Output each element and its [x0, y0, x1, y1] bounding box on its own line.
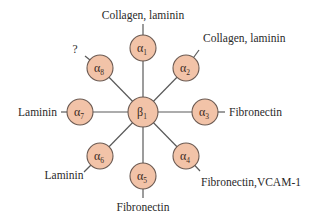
alpha3-subscript: 3 — [205, 112, 209, 121]
integrin-subunit-diagram: α1α2α3α4α5α6α7α8β1 Collagen, lamininColl… — [0, 0, 312, 220]
alpha2-subscript: 2 — [186, 68, 190, 77]
node-alpha1: α1 — [130, 35, 156, 61]
alpha7-subscript: 7 — [80, 112, 84, 121]
alpha5-subscript: 5 — [143, 176, 147, 185]
ligand-label-alpha6: Laminin — [45, 169, 84, 181]
ligand-label-alpha7: Laminin — [18, 106, 57, 118]
alpha8-subscript: 8 — [100, 68, 104, 77]
ligand-labels-group: Collagen, lamininCollagen, lamininFibron… — [18, 9, 301, 213]
node-alpha3: α3 — [192, 99, 218, 125]
node-alpha4: α4 — [173, 143, 199, 169]
ligand-label-alpha8: ? — [72, 43, 77, 55]
node-alpha2: α2 — [173, 55, 199, 81]
node-alpha5: α5 — [130, 163, 156, 189]
alpha1-subscript: 1 — [143, 48, 147, 57]
node-alpha8: α8 — [87, 55, 113, 81]
node-beta1: β1 — [128, 97, 158, 127]
ligand-label-alpha1: Collagen, laminin — [102, 9, 185, 22]
ligand-label-alpha4: Fibronectin,VCAM-1 — [201, 176, 301, 189]
alpha6-subscript: 6 — [100, 156, 104, 165]
alpha4-subscript: 4 — [186, 156, 190, 165]
ligand-label-alpha3: Fibronectin — [229, 106, 282, 118]
ligand-label-alpha5: Fibronectin — [116, 201, 169, 213]
ligand-label-alpha2: Collagen, laminin — [203, 32, 286, 45]
node-alpha6: α6 — [87, 143, 113, 169]
beta1-subscript: 1 — [143, 112, 147, 121]
node-alpha7: α7 — [67, 99, 93, 125]
